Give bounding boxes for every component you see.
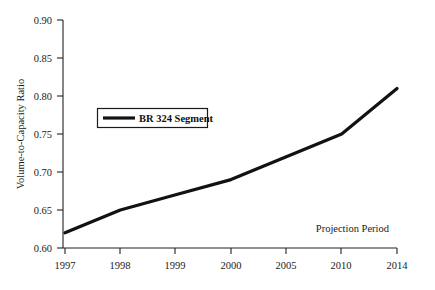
y-tick-label: 0.75 <box>34 129 52 140</box>
chart-figure: 0.90 0.85 0.80 0.75 0.70 0.65 0.60 1997 … <box>0 0 435 290</box>
y-tick-label: 0.70 <box>34 167 52 178</box>
projection-period-annotation: Projection Period <box>316 223 390 234</box>
y-tick-label: 0.90 <box>34 15 52 26</box>
line-chart: 0.90 0.85 0.80 0.75 0.70 0.65 0.60 1997 … <box>0 0 435 290</box>
x-tick-label: 2005 <box>276 260 297 271</box>
y-tick-label: 0.80 <box>34 91 52 102</box>
legend-label: BR 324 Segment <box>139 113 214 124</box>
y-tick-label: 0.85 <box>34 53 52 64</box>
y-axis-title: Volume-to-Capacity Ratio <box>15 79 26 189</box>
x-tick-label: 2000 <box>221 260 242 271</box>
x-tick-label: 2010 <box>331 260 352 271</box>
x-tick-label: 1999 <box>165 260 186 271</box>
chart-legend: BR 324 Segment <box>98 109 214 128</box>
y-tick-label: 0.60 <box>34 243 52 254</box>
x-tick-label: 1998 <box>110 260 131 271</box>
y-tick-label: 0.65 <box>34 205 52 216</box>
x-tick-label: 2014 <box>387 260 409 271</box>
x-tick-label: 1997 <box>55 260 76 271</box>
